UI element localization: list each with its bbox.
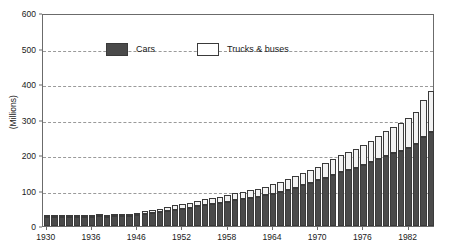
bar-segment-cars-1935	[81, 217, 87, 226]
bar-segment-cars-1931	[51, 217, 57, 226]
bar-segment-trucks-buses-1978	[375, 136, 381, 159]
bar-segment-trucks-buses-1956	[209, 198, 215, 204]
bar-segment-trucks-buses-1930	[44, 215, 50, 217]
bar-1961	[247, 190, 253, 226]
x-tick-mark-1982	[408, 227, 409, 230]
bar-segment-trucks-buses-1953	[187, 203, 193, 208]
bar-segment-trucks-buses-1970	[315, 167, 321, 180]
bar-1969	[307, 170, 313, 226]
bar-segment-cars-1962	[255, 197, 261, 226]
bar-segment-trucks-buses-1951	[172, 205, 178, 209]
bar-1984	[420, 100, 426, 226]
bar-segment-cars-1968	[300, 185, 306, 226]
bar-segment-cars-1969	[307, 183, 313, 226]
legend-label-cars: Cars	[136, 45, 155, 54]
y-tick-label-500: 500	[22, 45, 36, 54]
x-tick-mark-1976	[362, 227, 363, 230]
bar-segment-trucks-buses-1982	[405, 118, 411, 147]
bar-segment-cars-1983	[413, 144, 419, 226]
y-tick-label-0: 0	[31, 223, 36, 232]
bar-1979	[383, 131, 389, 226]
y-axis-title: (Millions)	[9, 82, 18, 142]
bar-segment-cars-1964	[270, 194, 276, 226]
bar-segment-trucks-buses-1963	[262, 187, 268, 196]
bar-1938	[104, 215, 110, 226]
bar-segment-cars-1958	[224, 202, 230, 226]
bar-segment-cars-1970	[315, 180, 321, 226]
bar-segment-cars-1977	[368, 162, 374, 226]
bar-1960	[240, 192, 246, 226]
bar-segment-trucks-buses-1957	[217, 197, 223, 203]
bar-segment-trucks-buses-1954	[194, 201, 200, 206]
x-tick-mark-1952	[181, 227, 182, 230]
bar-1941	[126, 214, 132, 226]
bar-segment-trucks-buses-1975	[353, 149, 359, 167]
bar-1963	[262, 187, 268, 226]
legend-entry-trucks-buses: Trucks & buses	[197, 43, 289, 56]
bar-1982	[405, 118, 411, 226]
y-tick-label-600: 600	[22, 10, 36, 19]
bar-segment-trucks-buses-1938	[104, 215, 110, 217]
bar-1959	[232, 193, 238, 226]
bar-segment-trucks-buses-1971	[322, 163, 328, 178]
bar-1958	[224, 195, 230, 226]
bar-segment-trucks-buses-1969	[307, 170, 313, 183]
bar-segment-trucks-buses-1936	[89, 215, 95, 217]
legend-swatch-cars	[106, 43, 128, 56]
y-tick-label-200: 200	[22, 152, 36, 161]
bar-segment-cars-1957	[217, 203, 223, 226]
bar-segment-cars-1933	[66, 217, 72, 226]
bar-1948	[149, 210, 155, 226]
bar-1953	[187, 203, 193, 226]
bar-segment-trucks-buses-1962	[255, 189, 261, 197]
bar-1930	[44, 216, 50, 226]
x-tick-mark-1970	[317, 227, 318, 230]
bar-segment-trucks-buses-1937	[96, 214, 102, 216]
bar-1950	[164, 207, 170, 226]
bar-segment-cars-1948	[149, 213, 155, 226]
bar-segment-cars-1963	[262, 195, 268, 226]
x-axis: 193019361946195219581964197019761982	[42, 227, 434, 252]
bar-segment-trucks-buses-1974	[345, 152, 351, 170]
x-tick-label-1946: 1946	[127, 233, 146, 242]
bar-1951	[172, 205, 178, 226]
bar-segment-trucks-buses-1932	[59, 215, 65, 217]
bar-segment-cars-1932	[59, 217, 65, 226]
bar-1956	[209, 198, 215, 226]
bar-segment-trucks-buses-1955	[202, 199, 208, 205]
bar-segment-trucks-buses-1940	[119, 214, 125, 216]
bar-segment-trucks-buses-1985	[428, 91, 434, 132]
bar-1965	[277, 182, 283, 226]
bar-segment-cars-1937	[96, 216, 102, 226]
x-tick-label-1930: 1930	[36, 233, 55, 242]
bar-1980	[390, 127, 396, 226]
bar-1933	[66, 216, 72, 226]
bar-segment-cars-1938	[104, 217, 110, 226]
bar-segment-trucks-buses-1947	[142, 211, 148, 214]
chart-legend: Cars Trucks & buses	[106, 40, 289, 58]
x-tick-mark-1936	[91, 227, 92, 230]
legend-label-trucks-buses: Trucks & buses	[227, 45, 289, 54]
bar-segment-cars-1940	[119, 216, 125, 226]
bar-1977	[368, 141, 374, 226]
stacked-bar-chart: (Millions) 0100200300400500600 Cars Truc…	[0, 0, 451, 252]
bar-segment-trucks-buses-1967	[292, 176, 298, 187]
x-tick-mark-1946	[136, 227, 137, 230]
bar-segment-trucks-buses-1960	[240, 192, 246, 199]
bar-1939	[111, 215, 117, 226]
bar-1949	[157, 209, 163, 226]
bar-1978	[375, 136, 381, 226]
bar-segment-trucks-buses-1935	[81, 215, 87, 217]
bar-segment-trucks-buses-1983	[413, 112, 419, 144]
legend-entry-cars: Cars	[106, 43, 155, 56]
x-tick-label-1976: 1976	[353, 233, 372, 242]
bar-segment-cars-1966	[285, 190, 291, 226]
bar-segment-cars-1955	[202, 205, 208, 226]
x-tick-mark-1930	[46, 227, 47, 230]
bar-segment-trucks-buses-1979	[383, 131, 389, 156]
bar-1962	[255, 189, 261, 226]
bar-1954	[194, 201, 200, 226]
bar-segment-cars-1959	[232, 200, 238, 226]
y-tick-label-400: 400	[22, 81, 36, 90]
bar-segment-cars-1934	[74, 217, 80, 226]
